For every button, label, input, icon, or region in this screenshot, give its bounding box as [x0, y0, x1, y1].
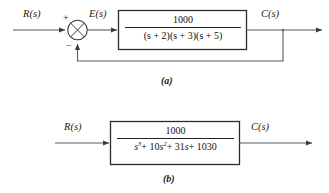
fraction-bar-a: [125, 27, 241, 28]
error-label-a: E(s): [89, 9, 107, 20]
transfer-function-a: 1000 (s + 2)(s + 3)(s + 5): [125, 14, 241, 42]
den-term2-coefficient: + 10: [141, 141, 159, 152]
summing-minus-sign: −: [66, 41, 72, 51]
transfer-function-b-denominator: s3+ 10s2+ 31s+ 1030: [117, 140, 234, 153]
transfer-function-b-numerator: 1000: [117, 125, 234, 138]
output-label-b: C(s): [251, 122, 269, 133]
den-term3-coefficient: + 31: [167, 141, 185, 152]
caption-a: (a): [161, 76, 173, 86]
input-label-a: R(s): [23, 9, 41, 20]
transfer-function-b: 1000 s3+ 10s2+ 31s+ 1030: [117, 125, 234, 153]
input-label-b: R(s): [64, 122, 82, 133]
transfer-function-a-denominator: (s + 2)(s + 3)(s + 5): [125, 29, 241, 42]
figure-block-diagram-pair: R(s) + − E(s) 1000 (s + 2)(s + 3)(s + 5)…: [0, 0, 329, 193]
caption-b: (b): [163, 174, 175, 184]
den-term4-constant: + 1030: [189, 141, 217, 152]
output-label-a: C(s): [261, 9, 279, 20]
transfer-function-a-numerator: 1000: [125, 14, 241, 27]
fraction-bar-b: [117, 138, 234, 139]
summing-plus-sign: +: [63, 13, 69, 23]
